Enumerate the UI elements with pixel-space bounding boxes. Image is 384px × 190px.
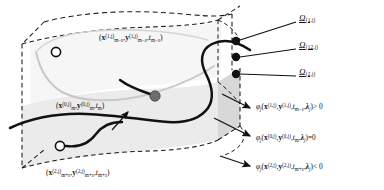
paren: ) <box>107 168 110 177</box>
relation-operator: > 0 <box>313 102 323 111</box>
open-circle-lower <box>55 141 64 150</box>
open-circle-upper <box>51 47 60 56</box>
relation-operator: < 0 <box>313 162 323 171</box>
omega-12-j-label: Ω(12,j) <box>299 41 318 51</box>
x-subscript: m+ε <box>61 172 70 178</box>
figure-canvas: Ω(1,j) Ω(12,j) Ω(2,j) (x(1,j)m−ε,y(1,j)m… <box>0 0 384 190</box>
x-superscript: (0,j) <box>268 133 277 139</box>
point-label-middle: (x(0,j)m,y(0,j)m,tm) <box>56 102 104 111</box>
leader-line-omega-1j <box>240 22 296 40</box>
equation-negative: φj(x(2,j),y(2,j),tm+ε,λj)< 0 <box>256 163 323 172</box>
paren: ) <box>102 101 105 110</box>
arrow-to-equation-negative <box>220 156 250 166</box>
boundary-dot-bottom <box>232 70 240 78</box>
x-superscript: (1,j) <box>105 33 114 39</box>
t-subscript: m−ε <box>295 106 304 112</box>
diagram-geometry <box>0 0 384 190</box>
equation-zero: φj(x(0,j),y(0,j),tm,λj)=0 <box>256 134 316 143</box>
y-superscript: (2,j) <box>76 168 85 174</box>
omega-symbol: Ω <box>299 40 306 50</box>
leader-line-omega-2j <box>240 74 296 76</box>
x-superscript: (1,j) <box>268 102 277 108</box>
y-subscript: m+ε <box>85 172 94 178</box>
x-superscript: (2,j) <box>268 162 277 168</box>
x-superscript: (0,j) <box>62 101 71 107</box>
x-subscript: m−ε <box>114 37 123 43</box>
y-superscript: (1,j) <box>129 33 138 39</box>
omega-subscript: (12,j) <box>306 44 319 50</box>
omega-1-j-label: Ω(1,j) <box>299 14 316 24</box>
omega-2-j-label: Ω(2,j) <box>299 68 316 78</box>
y-superscript: (0,j) <box>282 133 291 139</box>
y-subscript: m−ε <box>138 37 147 43</box>
equation-positive: φj(x(1,j),y(1,j),tm−ε,λj)> 0 <box>256 103 323 112</box>
y-superscript: (1,j) <box>282 102 291 108</box>
filled-circle-middle <box>150 91 160 101</box>
t-subscript: m+ε <box>98 172 107 178</box>
paren: ) <box>160 33 163 42</box>
y-superscript: (2,j) <box>282 162 291 168</box>
y-superscript: (0,j) <box>81 101 90 107</box>
point-label-upper: (x(1,j)m−ε,y(1,j)m−ε,tm−ε) <box>99 34 163 43</box>
point-label-lower: (x(2,j)m+ε,y(2,j)m+ε,tm+ε) <box>46 169 110 178</box>
omega-symbol: Ω <box>299 67 306 77</box>
t-subscript: m−ε <box>151 37 160 43</box>
omega-symbol: Ω <box>299 13 306 23</box>
upper-box-top-edge <box>44 12 232 22</box>
omega-subscript: (2,j) <box>306 71 316 77</box>
boundary-dot-mid <box>232 53 240 61</box>
upper-box-right-diagonal <box>218 6 240 20</box>
t-subscript: m+ε <box>295 166 304 172</box>
x-superscript: (2,j) <box>52 168 61 174</box>
relation-operator: =0 <box>308 133 316 142</box>
omega-subscript: (1,j) <box>306 17 316 23</box>
boundary-dot-top <box>232 37 240 45</box>
